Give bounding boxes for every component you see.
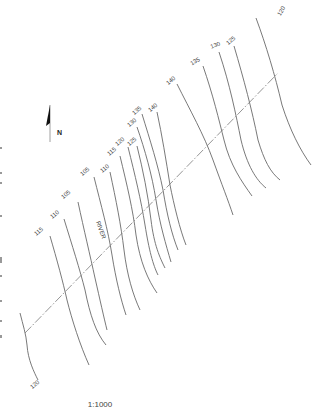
contour-line-125 bbox=[137, 146, 165, 268]
scale-label: 1:1000 bbox=[0, 400, 200, 409]
contour-map: 1201251301351401401351301251201151101051… bbox=[0, 0, 315, 416]
contour-label: 115 bbox=[106, 146, 118, 157]
contour-label: 120 bbox=[276, 5, 287, 17]
contour-line-115 bbox=[50, 236, 89, 365]
contour-label: 120 bbox=[114, 136, 126, 147]
contour-label: 105 bbox=[79, 166, 91, 177]
contour-line-140 bbox=[177, 84, 233, 215]
contour-label: 135 bbox=[131, 105, 143, 116]
contour-label: 110 bbox=[99, 163, 111, 174]
contour-label: 140 bbox=[147, 102, 159, 113]
contour-line-110 bbox=[64, 219, 106, 345]
page-margin-marks bbox=[0, 0, 3, 416]
contour-line-130 bbox=[219, 52, 266, 188]
contour-line-120 bbox=[20, 313, 38, 380]
contour-labels: 1201251301351401401351301251201151101051… bbox=[29, 5, 287, 390]
contour-line-130 bbox=[137, 127, 171, 262]
contour-line-120 bbox=[256, 18, 311, 165]
north-arrow: N bbox=[46, 105, 62, 142]
contour-label: 120 bbox=[29, 379, 41, 390]
contour-label: 140 bbox=[165, 75, 177, 86]
contour-label: 125 bbox=[126, 136, 138, 147]
north-label: N bbox=[57, 129, 62, 136]
contour-label: 130 bbox=[210, 40, 222, 49]
contour-label: 125 bbox=[225, 35, 237, 46]
contour-line-125 bbox=[234, 46, 280, 180]
contour-line-105 bbox=[78, 202, 107, 330]
contour-line-135 bbox=[142, 114, 178, 250]
contour-label: 115 bbox=[33, 226, 45, 237]
north-arrow-icon bbox=[46, 105, 50, 126]
contour-label: 135 bbox=[189, 56, 201, 67]
contour-label: 110 bbox=[49, 209, 61, 220]
contour-label: 130 bbox=[126, 117, 138, 128]
contour-label: 105 bbox=[60, 189, 72, 200]
